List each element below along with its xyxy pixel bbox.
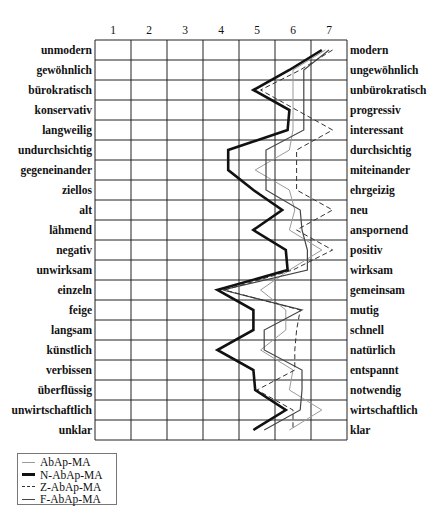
- legend-item-abap-ma: AbAp-MA: [22, 456, 116, 468]
- left-pole-label: unklar: [59, 424, 92, 436]
- right-pole-label: miteinander: [350, 164, 410, 176]
- right-pole-label: unbürokratisch: [350, 84, 427, 96]
- x-tick-label: 1: [110, 24, 116, 36]
- legend-label: Z-AbAp-MA: [40, 481, 101, 493]
- right-pole-label: entspannt: [350, 364, 399, 377]
- chart-grid: [95, 40, 347, 440]
- left-pole-label: negativ: [56, 244, 92, 257]
- x-tick-label: 6: [290, 24, 296, 36]
- semantic-differential-chart: 1234567 unmoderngewöhnlichbürokratischko…: [0, 0, 442, 528]
- left-pole-label: konservativ: [35, 104, 93, 116]
- left-pole-label: ziellos: [62, 184, 93, 196]
- right-pole-label: wirksam: [350, 264, 393, 276]
- legend-swatch-thin-dark-line: [22, 499, 35, 500]
- left-pole-label: gewöhnlich: [36, 64, 92, 77]
- left-pole-label: gegeneinander: [20, 164, 92, 177]
- legend-label: N-AbAp-MA: [40, 469, 103, 481]
- legend-label: F-AbAp-MA: [40, 493, 101, 505]
- right-pole-label: modern: [350, 44, 389, 56]
- right-pole-label: schnell: [350, 324, 384, 336]
- left-pole-label: einzeln: [58, 284, 93, 296]
- right-pole-label: durchsichtig: [350, 144, 411, 157]
- right-pole-label: positiv: [350, 244, 383, 257]
- left-pole-label: unmodern: [41, 44, 93, 56]
- x-tick-label: 3: [182, 24, 188, 36]
- left-pole-label: lähmend: [49, 224, 92, 236]
- legend-swatch-thick-line: [22, 473, 35, 476]
- right-pole-label: ungewöhnlich: [350, 64, 419, 77]
- legend-item-z-abap-ma: Z-AbAp-MA: [22, 481, 116, 493]
- right-pole-label: klar: [350, 424, 370, 436]
- legend-swatch-thin-light-line: [22, 462, 35, 463]
- right-pole-label: interessant: [350, 124, 404, 136]
- x-tick-label: 4: [218, 24, 224, 36]
- x-tick-label: 2: [146, 24, 152, 36]
- right-pole-label: neu: [350, 204, 369, 216]
- left-pole-label: langweilig: [42, 124, 92, 137]
- right-pole-label: gemeinsam: [350, 284, 405, 297]
- right-pole-label: mutig: [350, 304, 379, 317]
- left-pole-label: langsam: [51, 324, 92, 337]
- right-pole-label: wirtschaftlich: [350, 404, 418, 416]
- left-pole-label: alt: [79, 204, 92, 216]
- right-pole-label: anspornend: [350, 224, 409, 237]
- right-pole-label: natürlich: [350, 344, 396, 356]
- legend-item-f-abap-ma: F-AbAp-MA: [22, 493, 116, 505]
- x-axis-tick-labels: 1234567: [110, 24, 332, 36]
- left-pole-label: verbissen: [46, 364, 93, 376]
- left-pole-label: feige: [69, 304, 92, 317]
- right-pole-label: ehrgeizig: [350, 184, 395, 197]
- left-pole-label: unwirksam: [36, 264, 92, 276]
- left-pole-labels: unmoderngewöhnlichbürokratischkonservati…: [12, 44, 93, 436]
- left-pole-label: künstlich: [47, 344, 93, 356]
- legend-label: AbAp-MA: [40, 456, 90, 468]
- x-tick-label: 5: [254, 24, 260, 36]
- right-pole-labels: modernungewöhnlichunbürokratischprogress…: [350, 44, 427, 436]
- x-tick-label: 7: [326, 24, 332, 36]
- left-pole-label: unwirtschaftlich: [12, 404, 93, 416]
- left-pole-label: undurchsichtig: [18, 144, 92, 157]
- right-pole-label: progressiv: [350, 104, 401, 117]
- left-pole-label: überflüssig: [38, 384, 93, 397]
- right-pole-label: notwendig: [350, 384, 401, 397]
- left-pole-label: bürokratisch: [28, 84, 92, 96]
- chart-legend: AbAp-MA N-AbAp-MA Z-AbAp-MA F-AbAp-MA: [17, 453, 117, 505]
- legend-swatch-dashed-line: [22, 486, 35, 487]
- legend-item-n-abap-ma: N-AbAp-MA: [22, 468, 116, 480]
